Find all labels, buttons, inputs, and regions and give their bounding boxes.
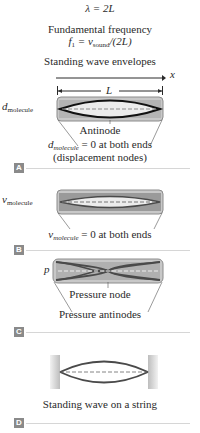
panel-b-divider — [26, 250, 190, 251]
fundamental-frequency-equation: f1 = vsound/(2L) — [0, 35, 200, 51]
panel-b-y-label: vmolecule — [2, 193, 33, 209]
panel-c-pressure-node-label: Pressure node — [0, 288, 200, 300]
panel-a-y-label: dmolecule — [2, 100, 33, 116]
panel-b-caption-line1: vmolecule = 0 at both ends — [0, 228, 200, 244]
panel-c-pressure-antinodes-label: Pressure antinodes — [0, 308, 200, 320]
panel-c-y-label: p — [44, 263, 50, 275]
panel-d-caption: Standing wave on a string — [0, 398, 200, 410]
envelopes-title: Standing wave envelopes — [0, 55, 200, 67]
panel-d-string-diagram — [44, 355, 164, 389]
panel-d-badge: D — [14, 418, 24, 428]
x-axis-label: x — [170, 68, 175, 80]
panel-a-badge: A — [14, 163, 24, 173]
panel-a-antinode-label: Antinode — [0, 124, 200, 136]
panel-a-tube-diagram — [56, 96, 164, 122]
panel-a-divider — [26, 168, 190, 169]
panel-c-tube-diagram — [52, 258, 164, 284]
fundamental-frequency-label: Fundamental frequency — [0, 23, 200, 35]
panel-a-caption-line2: (displacement nodes) — [0, 151, 200, 163]
length-label: L — [106, 84, 112, 96]
wavelength-equation: λ = 2L — [0, 2, 200, 14]
panel-b-badge: B — [14, 245, 24, 255]
panel-b-tube-diagram — [56, 189, 164, 215]
panel-c-badge: C — [14, 327, 24, 337]
panel-d-divider — [26, 423, 190, 424]
panel-c-divider — [26, 332, 190, 333]
x-axis-arrow-icon — [56, 74, 166, 82]
